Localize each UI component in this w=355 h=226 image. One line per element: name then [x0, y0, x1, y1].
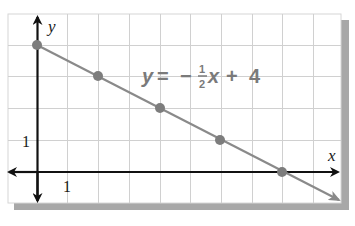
- equation-lhs: y: [141, 65, 154, 87]
- equation-minus: −: [180, 65, 192, 87]
- point-8-0: [277, 167, 287, 177]
- point-6-1: [215, 135, 225, 145]
- y-tick-label: 1: [22, 133, 30, 150]
- equation-fraction-denominator: 2: [199, 78, 205, 90]
- linear-graph: y x 1 1 y = − 1 2 x + 4: [0, 0, 355, 226]
- equation-equals: =: [157, 65, 169, 87]
- equation-variable: x: [207, 65, 220, 87]
- x-tick-label: 1: [63, 178, 71, 195]
- y-axis-label: y: [46, 17, 56, 36]
- point-2-3: [93, 71, 103, 81]
- point-4-2: [155, 103, 165, 113]
- equation-plus: +: [226, 65, 238, 87]
- x-axis-label: x: [327, 146, 336, 165]
- equation-fraction-numerator: 1: [199, 63, 205, 75]
- point-0-4: [32, 40, 42, 50]
- equation-constant: 4: [249, 65, 261, 87]
